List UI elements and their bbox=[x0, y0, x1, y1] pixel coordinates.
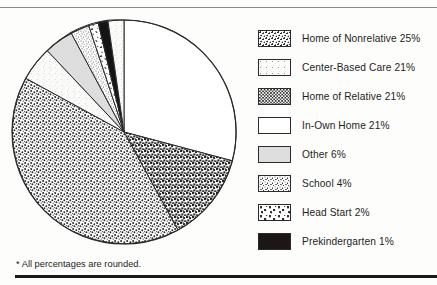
pie-chart-svg bbox=[0, 0, 250, 258]
legend-swatch-school bbox=[258, 175, 291, 192]
legend-item-prekindergarten: Prekindergarten 1% bbox=[258, 227, 437, 256]
pie-chart-figure: Home of Nonrelative 25% Center-Based Car… bbox=[0, 0, 437, 285]
legend: Home of Nonrelative 25% Center-Based Car… bbox=[258, 24, 437, 256]
legend-item-school: School 4% bbox=[258, 169, 437, 198]
legend-label-head-start: Head Start 2% bbox=[302, 207, 370, 218]
legend-label-other: Other 6% bbox=[302, 149, 346, 160]
legend-swatch-prekindergarten bbox=[258, 233, 291, 250]
legend-label-home-of-nonrelative: Home of Nonrelative 25% bbox=[302, 33, 420, 44]
legend-label-school: School 4% bbox=[302, 178, 352, 189]
legend-item-head-start: Head Start 2% bbox=[258, 198, 437, 227]
pie-chart bbox=[0, 0, 250, 258]
legend-label-home-of-relative: Home of Relative 21% bbox=[302, 91, 405, 102]
legend-label-prekindergarten: Prekindergarten 1% bbox=[302, 236, 394, 247]
legend-swatch-home-of-relative bbox=[258, 88, 291, 105]
footnote-text: * All percentages are rounded. bbox=[16, 259, 141, 269]
legend-item-home-of-nonrelative: Home of Nonrelative 25% bbox=[258, 24, 437, 53]
legend-label-in-own-home: In-Own Home 21% bbox=[302, 120, 390, 131]
legend-label-center-based-care: Center-Based Care 21% bbox=[302, 62, 415, 73]
legend-item-other: Other 6% bbox=[258, 140, 437, 169]
legend-item-home-of-relative: Home of Relative 21% bbox=[258, 82, 437, 111]
legend-swatch-in-own-home bbox=[258, 117, 291, 134]
legend-item-center-based-care: Center-Based Care 21% bbox=[258, 53, 437, 82]
legend-swatch-other bbox=[258, 146, 291, 163]
legend-swatch-home-of-nonrelative bbox=[258, 30, 291, 47]
legend-swatch-center-based-care bbox=[258, 59, 291, 76]
bottom-divider bbox=[15, 275, 437, 278]
pie-slices bbox=[12, 20, 236, 244]
legend-swatch-head-start bbox=[258, 204, 291, 221]
legend-item-in-own-home: In-Own Home 21% bbox=[258, 111, 437, 140]
